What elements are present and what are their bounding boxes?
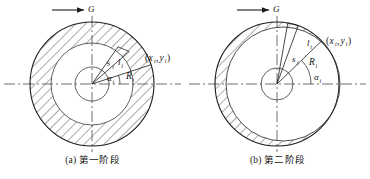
- svg-text:,: ,: [337, 36, 339, 46]
- label-R-b: R: [308, 57, 315, 67]
- svg-text:y: y: [340, 36, 346, 46]
- point-label-a: ( x i , y i ): [145, 53, 170, 64]
- label-R-a: R: [125, 71, 132, 81]
- load-label-a: G: [88, 4, 95, 14]
- panel-first-stage: s i l i R i α i ( x i , y i ): [0, 0, 185, 179]
- figure-container: s i l i R i α i ( x i , y i ): [0, 0, 370, 179]
- label-alpha-b: α: [314, 72, 319, 82]
- point-label-b: ( x i , y i ): [326, 36, 351, 47]
- caption-panel-a: (a) 第一阶段: [0, 152, 185, 166]
- svg-text:): ): [167, 53, 170, 64]
- caption-panel-b: (b) 第二阶段: [185, 152, 370, 166]
- svg-text:,: ,: [156, 53, 158, 63]
- svg-text:x: x: [148, 53, 154, 63]
- label-s-b: s: [292, 54, 296, 64]
- panel-second-stage: s i l i R i α i ( x i , y i ): [185, 0, 370, 179]
- svg-text:y: y: [159, 53, 165, 63]
- svg-text:x: x: [329, 36, 335, 46]
- load-label-b: G: [273, 4, 280, 14]
- label-alpha-a: α: [107, 73, 112, 83]
- svg-text:): ): [348, 36, 351, 47]
